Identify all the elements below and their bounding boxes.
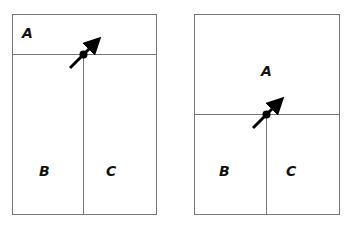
left-label-c: C [106,163,117,179]
right-diagram: A B C [195,15,340,215]
left-label-b: B [39,163,50,179]
right-junction-dot [263,111,271,119]
right-label-a: A [260,63,272,79]
right-label-c: C [286,163,297,179]
left-diagram: A B C [13,15,157,215]
left-border [13,15,157,215]
left-junction-dot [80,51,88,59]
right-label-b: B [219,163,230,179]
left-label-a: A [21,25,33,41]
diagram-canvas: A B C A B C [0,0,353,228]
